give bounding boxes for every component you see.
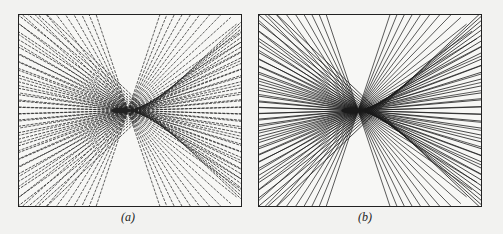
diagram-panel-b [258,14,482,207]
caustic-envelope-b [259,15,481,206]
panel-caption-a: (a) [121,210,135,225]
panel-caption-b: (b) [358,210,372,225]
diagram-panel-a [18,14,242,207]
caustic-envelope-a [19,15,241,206]
